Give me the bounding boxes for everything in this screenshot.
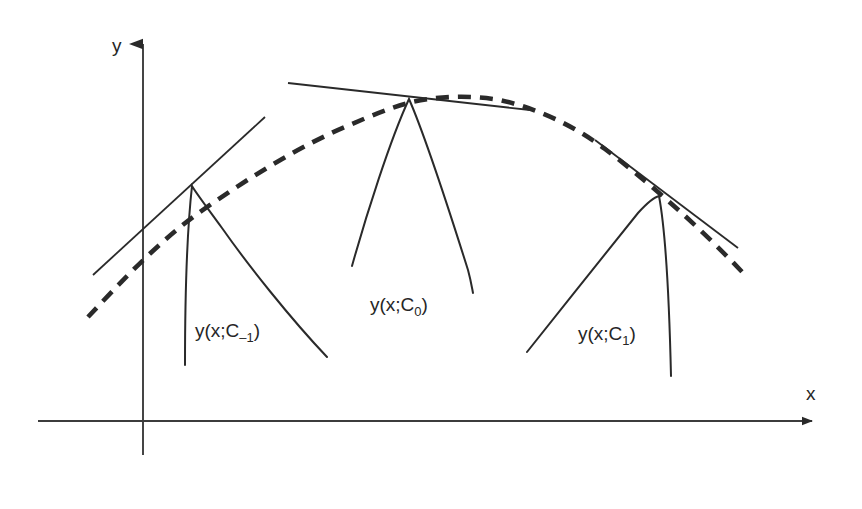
label-curve-right: y(x;C1) [578, 323, 636, 348]
y-axis-label: y [112, 35, 122, 56]
label-curve-left: y(x;C–1) [195, 320, 260, 345]
label-curve-middle-main: y(x;C [370, 294, 414, 315]
label-curve-middle: y(x;C0) [370, 294, 428, 319]
envelope-diagram-svg: y(x;C–1) y(x;C0) y(x;C1) y x [0, 0, 862, 509]
curve-labels-group: y(x;C–1) y(x;C0) y(x;C1) [195, 294, 636, 348]
label-curve-right-sub: 1 [622, 333, 629, 348]
tangent-line-middle [288, 83, 530, 110]
label-curve-left-sub: –1 [239, 330, 253, 345]
figure-canvas: y(x;C–1) y(x;C0) y(x;C1) y x [0, 0, 862, 509]
label-curve-left-main: y(x;C [195, 320, 239, 341]
label-curve-middle-sub: 0 [414, 304, 421, 319]
solution-curve-middle [352, 99, 473, 293]
x-axis-label: x [806, 383, 816, 404]
axis-labels-group: y x [112, 35, 816, 404]
solution-curve-right [527, 196, 671, 376]
label-curve-right-close: ) [630, 323, 636, 344]
label-curve-right-main: y(x;C [578, 323, 622, 344]
label-curve-left-close: ) [254, 320, 260, 341]
label-curve-middle-close: ) [422, 294, 428, 315]
tangent-line-right [595, 140, 738, 248]
